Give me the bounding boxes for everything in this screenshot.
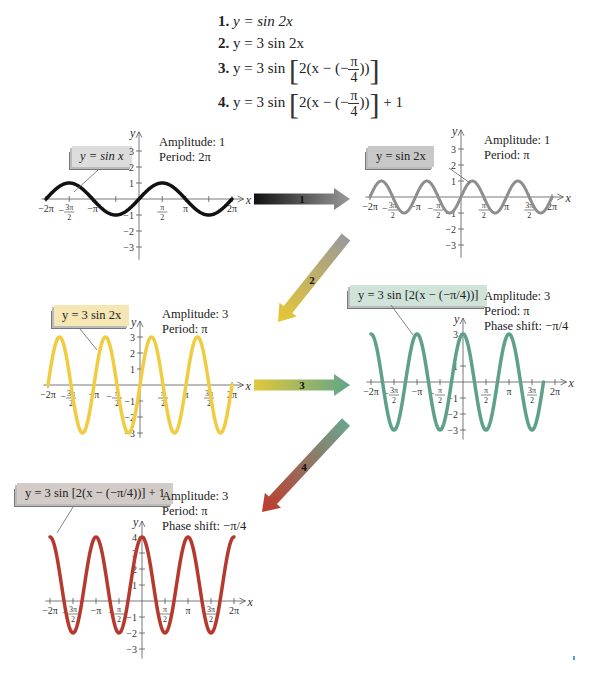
x-tick-label: −π bbox=[91, 605, 102, 616]
svg-text:2: 2 bbox=[67, 213, 71, 222]
transformation-diagram: 1. y = sin 2x 2. y = 3 sin 2x 3. y = 3 s… bbox=[0, 0, 594, 685]
transformation-arrows: 1234 bbox=[254, 188, 350, 512]
x-tick-label: 2π bbox=[550, 386, 560, 397]
x-tick-label: π bbox=[506, 386, 511, 397]
svg-text:2: 2 bbox=[117, 615, 121, 624]
y-tick-label: 1 bbox=[129, 178, 134, 189]
arrow-3-number: 3 bbox=[299, 379, 305, 391]
y-tick-label: −3 bbox=[445, 240, 456, 251]
x-tick-label: −2π bbox=[38, 203, 54, 214]
x-tick-label: 3π bbox=[528, 386, 536, 395]
svg-text:2: 2 bbox=[163, 615, 167, 624]
y-tick-label: 3 bbox=[453, 329, 458, 340]
y-tick-label: −1 bbox=[126, 612, 137, 623]
svg-text:−: − bbox=[382, 203, 388, 214]
x-axis-label: x bbox=[245, 193, 252, 207]
x-tick-label: 3π bbox=[207, 605, 215, 614]
x-tick-label: π bbox=[438, 386, 442, 395]
x-tick-label: π bbox=[185, 605, 190, 616]
y-tick-label: −2 bbox=[445, 224, 456, 235]
y-tick-label: 4 bbox=[132, 532, 137, 543]
y-axis-label: y bbox=[130, 315, 137, 329]
svg-text:−: − bbox=[106, 391, 112, 402]
x-tick-label: −π bbox=[412, 386, 423, 397]
y-tick-label: 2 bbox=[130, 348, 135, 359]
svg-text:2: 2 bbox=[438, 396, 442, 405]
x-tick-label: π bbox=[484, 386, 488, 395]
graph-1: yx−2π−3π2−ππ2π2π321−1−2−3 bbox=[38, 126, 251, 260]
arrow-4-number: 4 bbox=[301, 461, 307, 473]
page-marker bbox=[573, 656, 575, 660]
x-tick-label: 3π bbox=[390, 386, 398, 395]
y-tick-label: −3 bbox=[123, 242, 134, 253]
x-axis-label: x bbox=[568, 376, 575, 390]
svg-text:2: 2 bbox=[527, 211, 531, 220]
x-tick-label: −2π bbox=[362, 201, 378, 212]
y-tick-label: 3 bbox=[130, 332, 135, 343]
label-leader-line bbox=[80, 329, 97, 350]
y-axis-label: y bbox=[129, 126, 136, 140]
x-axis-label: x bbox=[564, 191, 571, 205]
y-tick-label: 2 bbox=[129, 162, 134, 173]
y-tick-label: 3 bbox=[129, 146, 134, 157]
x-tick-label: −2π bbox=[42, 605, 58, 616]
x-tick-label: π bbox=[163, 605, 167, 614]
label-leader-line bbox=[57, 507, 73, 533]
arrow-1-number: 1 bbox=[299, 193, 305, 205]
y-tick-label: −2 bbox=[126, 628, 137, 639]
y-tick-label: 2 bbox=[451, 160, 456, 171]
y-tick-label: −1 bbox=[124, 396, 135, 407]
x-tick-label: 2π bbox=[229, 605, 239, 616]
x-tick-label: π bbox=[183, 203, 188, 214]
graphs-canvas: 1234 yx−2π−3π2−ππ2π2π321−1−2−3yx−2π−3π2−… bbox=[0, 0, 594, 685]
svg-text:2: 2 bbox=[392, 396, 396, 405]
x-tick-label: 3π bbox=[65, 203, 73, 212]
label-leader-line bbox=[391, 305, 413, 335]
y-axis-label: y bbox=[453, 312, 460, 326]
svg-text:−: − bbox=[427, 203, 433, 214]
y-tick-label: −2 bbox=[447, 409, 458, 420]
y-axis-label: y bbox=[132, 515, 139, 529]
y-tick-label: −2 bbox=[123, 226, 134, 237]
arrow-2-number: 2 bbox=[309, 274, 315, 286]
graph-4: yx−2π−3π2−π−π2π2π3π22π31−1−2−3 bbox=[363, 312, 574, 440]
svg-text:2: 2 bbox=[391, 211, 395, 220]
svg-text:2: 2 bbox=[482, 211, 486, 220]
graph-5: yx−2π−3π2−π−π2π2π3π22π4321−1−2−3 bbox=[42, 515, 253, 659]
y-tick-label: 1 bbox=[130, 364, 135, 375]
x-tick-label: 3π bbox=[69, 605, 77, 614]
svg-text:2: 2 bbox=[209, 615, 213, 624]
x-tick-label: −2π bbox=[40, 389, 56, 400]
svg-text:2: 2 bbox=[160, 213, 164, 222]
graph-3: yx−2π−3π2−π−π2π2π3π22π321−1−2−3 bbox=[40, 315, 251, 439]
y-tick-label: −3 bbox=[447, 425, 458, 436]
label-leader-line bbox=[74, 170, 98, 192]
svg-text:2: 2 bbox=[71, 615, 75, 624]
svg-text:−: − bbox=[58, 205, 64, 216]
x-tick-label: π bbox=[117, 605, 121, 614]
x-axis-label: x bbox=[247, 595, 254, 609]
y-axis-label: y bbox=[451, 124, 458, 138]
x-tick-label: −2π bbox=[363, 386, 379, 397]
svg-text:2: 2 bbox=[530, 396, 534, 405]
x-axis-label: x bbox=[245, 379, 252, 393]
y-tick-label: −3 bbox=[126, 644, 137, 655]
y-tick-label: 1 bbox=[451, 176, 456, 187]
svg-text:−: − bbox=[60, 391, 66, 402]
x-tick-label: π bbox=[160, 203, 164, 212]
svg-text:2: 2 bbox=[436, 211, 440, 220]
y-tick-label: 3 bbox=[451, 144, 456, 155]
svg-text:2: 2 bbox=[484, 396, 488, 405]
graph-2: yx−2π−3π2−π−π2π2π3π22π321−1−2−3 bbox=[362, 124, 571, 258]
